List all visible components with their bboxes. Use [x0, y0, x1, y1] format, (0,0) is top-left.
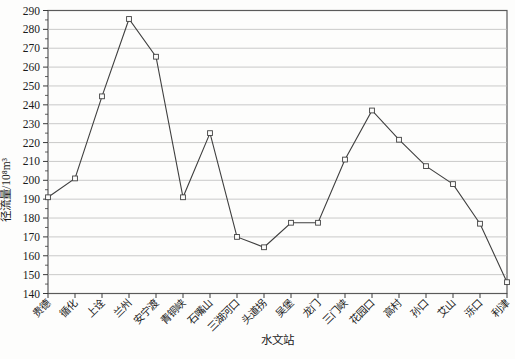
y-tick-label: 250: [23, 80, 41, 92]
data-point-marker: [370, 108, 375, 113]
data-point-marker: [46, 195, 51, 200]
y-tick-label: 140: [23, 288, 41, 300]
y-tick-label: 260: [23, 61, 41, 73]
data-point-marker: [478, 221, 483, 226]
x-axis-title: 水文站: [261, 333, 295, 346]
y-tick-label: 280: [23, 23, 41, 35]
y-tick-label: 240: [23, 99, 41, 111]
data-point-marker: [235, 235, 240, 240]
x-category-label: 头道拐: [239, 296, 269, 326]
data-point-marker: [451, 182, 456, 187]
data-point-marker: [208, 131, 213, 136]
y-tick-label: 230: [23, 118, 41, 130]
data-point-marker: [289, 220, 294, 225]
x-category-label: 安宁渡: [131, 296, 161, 326]
data-point-marker: [316, 220, 321, 225]
x-category-label: 循化: [57, 296, 80, 319]
y-tick-label: 190: [23, 193, 41, 205]
y-tick-label: 270: [23, 42, 41, 54]
x-category-label: 高村: [381, 296, 404, 319]
x-category-label: 利津: [489, 296, 512, 319]
chart-screenshot: 1401501601701801902002102202302402502602…: [0, 0, 515, 359]
y-tick-label: 160: [23, 250, 41, 262]
x-category-label: 花园口: [347, 296, 377, 326]
data-point-marker: [127, 17, 132, 22]
x-category-label: 孙口: [408, 296, 431, 319]
data-point-marker: [505, 280, 510, 285]
x-category-label: 兰州: [111, 296, 134, 319]
y-axis-title: 径流量/10⁸m³: [0, 157, 12, 222]
data-point-marker: [262, 245, 267, 250]
x-category-label: 泺口: [462, 297, 484, 319]
x-category-label: 龙门: [300, 296, 323, 319]
y-tick-label: 150: [23, 269, 41, 281]
data-point-marker: [424, 164, 429, 169]
data-point-marker: [154, 54, 159, 59]
y-tick-label: 210: [23, 155, 41, 167]
y-tick-label: 220: [23, 137, 41, 149]
data-point-marker: [181, 195, 186, 200]
y-tick-label: 170: [23, 231, 41, 243]
y-tick-label: 180: [23, 212, 41, 224]
y-tick-label: 200: [23, 174, 41, 186]
x-category-label: 三门峡: [320, 296, 350, 326]
data-point-marker: [100, 94, 105, 99]
data-point-marker: [73, 176, 78, 181]
runoff-line-chart: 1401501601701801902002102202302402502602…: [0, 0, 515, 359]
data-point-marker: [343, 157, 348, 162]
x-category-label: 艾山: [435, 297, 457, 319]
x-category-label: 吴堡: [273, 296, 296, 319]
x-category-label: 青铜峡: [158, 296, 188, 326]
y-tick-label: 290: [23, 5, 41, 17]
data-point-marker: [397, 137, 402, 142]
x-category-label: 上诠: [84, 296, 107, 319]
